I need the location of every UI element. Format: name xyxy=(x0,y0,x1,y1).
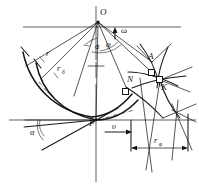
label-radius-r: r xyxy=(46,48,50,58)
tangent-ray-upper-right xyxy=(160,67,192,80)
label-omega: ω xyxy=(121,25,127,35)
label-point-P: P xyxy=(88,118,95,128)
node-markers xyxy=(95,20,163,121)
node-dot-O xyxy=(96,20,99,23)
lower-right-structure xyxy=(126,78,196,172)
label-phi: φ xyxy=(106,39,111,49)
label-alpha-top: α xyxy=(95,41,100,51)
outer-arc-end-tick xyxy=(21,47,29,56)
radius-leader-lines xyxy=(40,57,104,78)
technical-diagram: O A K N P ω φ α α υ r r б r φ xyxy=(0,0,199,187)
diagram-canvas: O A K N P ω φ α α υ r r б r φ xyxy=(0,0,199,187)
r-leader xyxy=(40,57,44,62)
radius-line-left-mid xyxy=(74,22,98,96)
label-alpha-bottom: α xyxy=(30,127,35,137)
label-radius-r-phi-base: r xyxy=(154,135,158,145)
label-radius-r-b-sub: б xyxy=(62,69,65,75)
node-dot-P xyxy=(95,119,98,122)
velocity-arrow-group xyxy=(105,130,132,135)
label-radius-r-b: r б xyxy=(57,63,65,75)
omega-arrow-head xyxy=(113,27,118,33)
label-point-O: O xyxy=(100,7,107,17)
r-b-leader xyxy=(54,73,58,78)
label-point-A: A xyxy=(147,51,154,61)
inner-cutting-edge-arc xyxy=(36,63,96,120)
node-square-A xyxy=(149,70,155,76)
ray-from-A-upper xyxy=(152,44,171,62)
node-square-N xyxy=(123,89,129,95)
ray-right-upper xyxy=(163,104,196,118)
label-point-N: N xyxy=(126,74,134,84)
label-group: O A K N P ω φ α α υ r r б r φ xyxy=(30,7,168,147)
radial-lines-from-O xyxy=(26,22,160,120)
alpha-angle-arc-at-P xyxy=(40,120,44,136)
label-point-K: K xyxy=(160,82,168,92)
radius-line-outer-left xyxy=(26,22,98,66)
alpha-arc-tick xyxy=(84,45,89,46)
r-phi-arrow-right xyxy=(182,146,188,150)
outer-arc-right-continuation xyxy=(92,94,132,117)
long-ray-1 xyxy=(140,78,152,172)
label-radius-r-phi: r φ xyxy=(154,135,162,147)
omega-arrow-group xyxy=(113,27,118,39)
label-radius-r-b-base: r xyxy=(57,63,61,73)
radius-line-base-left xyxy=(41,22,98,79)
label-radius-r-phi-sub: φ xyxy=(159,141,162,147)
r-phi-arrow-left xyxy=(131,146,137,150)
label-velocity-v: υ xyxy=(112,121,116,131)
angle-arcs-at-O xyxy=(84,38,121,53)
long-ray-2 xyxy=(146,80,160,170)
